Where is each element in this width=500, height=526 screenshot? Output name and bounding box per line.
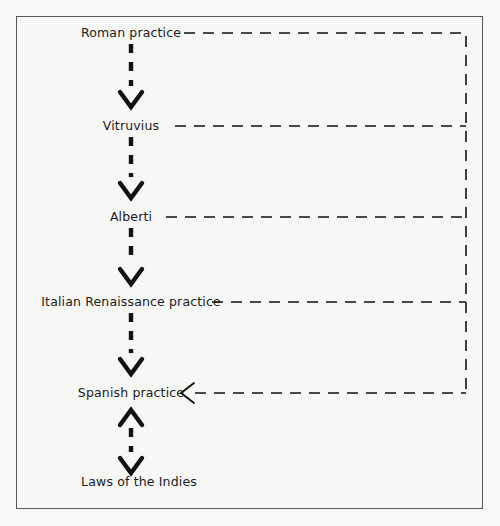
arrowhead-up-spanish [120,410,142,425]
feedback-line-roman [184,33,466,393]
figure-canvas: Roman practice Vitruvius Alberti Italian… [0,0,500,526]
flow-diagram [0,0,500,526]
node-label-roman-practice: Roman practice [81,27,181,40]
arrowhead-down-vitruvius [120,92,142,107]
node-label-alberti: Alberti [110,211,152,224]
arrowhead-down-spanish [120,359,142,374]
arrowhead-down-alberti [120,183,142,198]
node-label-spanish-practice: Spanish practice [78,387,184,400]
arrowhead-down-laws [120,458,142,473]
node-label-laws-of-the-indies: Laws of the Indies [81,476,197,489]
node-label-vitruvius: Vitruvius [103,120,159,133]
arrowhead-down-italian [120,269,142,284]
node-label-italian-renaissance-practice: Italian Renaissance practice [41,296,221,309]
